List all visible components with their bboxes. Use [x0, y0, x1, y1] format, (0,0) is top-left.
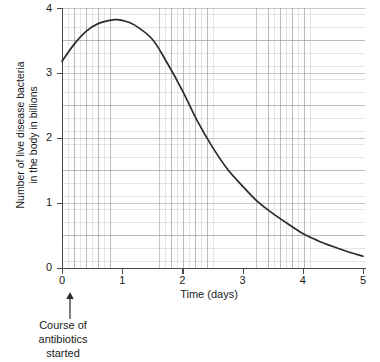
antibiotics-annotation-line1: Course of: [6, 318, 120, 332]
series-line-live-bacteria: [62, 19, 363, 256]
antibiotics-annotation: Course of antibiotics started: [6, 318, 120, 360]
data-curve-layer: [0, 0, 380, 362]
antibiotics-arrow-icon: [63, 292, 77, 320]
antibiotics-annotation-line2: antibiotics: [6, 332, 120, 346]
chart-figure: 0 1 2 3 4 0 1 2 3 4 5 Time (days) Number…: [0, 0, 380, 362]
antibiotics-annotation-line3: started: [6, 346, 120, 360]
